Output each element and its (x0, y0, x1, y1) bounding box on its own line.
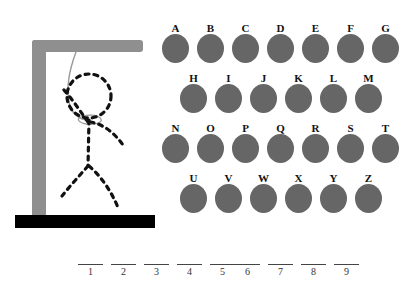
letter-disc[interactable] (197, 34, 224, 63)
letter-label: S (337, 122, 364, 134)
letter-disc[interactable] (250, 84, 277, 113)
letter-key-t[interactable]: T (372, 122, 407, 172)
gallows-area (0, 0, 165, 248)
letter-label: D (267, 22, 294, 34)
letter-label: T (372, 122, 399, 134)
letter-key-f[interactable]: F (337, 22, 372, 72)
letter-disc[interactable] (267, 134, 294, 163)
letter-label: I (215, 72, 242, 84)
letter-disc[interactable] (180, 184, 207, 213)
letter-disc[interactable] (302, 134, 329, 163)
letter-key-x[interactable]: X (285, 172, 320, 222)
letter-key-m[interactable]: M (355, 72, 390, 122)
letter-key-g[interactable]: G (372, 22, 407, 72)
letter-key-u[interactable]: U (180, 172, 215, 222)
letter-key-a[interactable]: A (162, 22, 197, 72)
letter-key-q[interactable]: Q (267, 122, 302, 172)
letter-disc[interactable] (250, 184, 277, 213)
figure-left-leg (62, 166, 88, 196)
letter-key-k[interactable]: K (285, 72, 320, 122)
answer-slot-number: 6 (232, 266, 263, 278)
answer-slot-number: 2 (108, 266, 139, 278)
answer-slot[interactable]: 8 (298, 258, 329, 278)
letter-label: K (285, 72, 312, 84)
letter-key-b[interactable]: B (197, 22, 232, 72)
answer-slot[interactable]: 4 (174, 258, 205, 278)
letter-key-y[interactable]: Y (320, 172, 355, 222)
figure-right-arm (90, 122, 125, 148)
letter-disc[interactable] (337, 134, 364, 163)
letter-label: L (320, 72, 347, 84)
letter-label: Z (355, 172, 382, 184)
letter-key-i[interactable]: I (215, 72, 250, 122)
letter-key-o[interactable]: O (197, 122, 232, 172)
letter-disc[interactable] (302, 34, 329, 63)
letter-key-l[interactable]: L (320, 72, 355, 122)
letter-disc[interactable] (197, 134, 224, 163)
letter-disc[interactable] (372, 134, 399, 163)
answer-slot[interactable]: 1 (75, 258, 106, 278)
letter-key-e[interactable]: E (302, 22, 337, 72)
letter-label: W (250, 172, 277, 184)
answer-blanks-area: 1 2 3 4 5 6 (0, 258, 412, 298)
answer-slot-number: 8 (298, 266, 329, 278)
letter-label: X (285, 172, 312, 184)
letter-key-w[interactable]: W (250, 172, 285, 222)
letter-disc[interactable] (232, 134, 259, 163)
letter-key-h[interactable]: H (180, 72, 215, 122)
figure-torso (88, 120, 89, 166)
letter-label: A (162, 22, 189, 34)
answer-slot[interactable]: 9 (331, 258, 362, 278)
letter-disc[interactable] (232, 34, 259, 63)
letter-key-z[interactable]: Z (355, 172, 390, 222)
figure-head (67, 74, 111, 118)
answer-blank-line (235, 264, 260, 265)
letter-disc[interactable] (320, 184, 347, 213)
letter-label: H (180, 72, 207, 84)
letter-disc[interactable] (162, 34, 189, 63)
letter-disc[interactable] (267, 34, 294, 63)
answer-slot[interactable]: 2 (108, 258, 139, 278)
letter-key-s[interactable]: S (337, 122, 372, 172)
letter-disc[interactable] (320, 84, 347, 113)
hangman-figure (0, 0, 165, 248)
answer-slot[interactable]: 7 (265, 258, 296, 278)
letter-label: E (302, 22, 329, 34)
answer-blank-line (111, 264, 136, 265)
answer-blank-line (78, 264, 103, 265)
letter-disc[interactable] (285, 184, 312, 213)
letter-label: C (232, 22, 259, 34)
letter-disc[interactable] (285, 84, 312, 113)
letter-disc[interactable] (162, 134, 189, 163)
letter-disc[interactable] (215, 84, 242, 113)
letter-disc[interactable] (372, 34, 399, 63)
letter-disc[interactable] (337, 34, 364, 63)
answer-slot-number: 4 (174, 266, 205, 278)
letter-label: Q (267, 122, 294, 134)
letter-disc[interactable] (355, 84, 382, 113)
letter-disc[interactable] (215, 184, 242, 213)
letter-key-v[interactable]: V (215, 172, 250, 222)
letter-key-c[interactable]: C (232, 22, 267, 72)
letter-key-r[interactable]: R (302, 122, 337, 172)
letter-row: N O P Q R S T (162, 122, 412, 172)
letter-disc[interactable] (180, 84, 207, 113)
answer-slot-number: 3 (141, 266, 172, 278)
answer-slot-number: 7 (265, 266, 296, 278)
letter-disc[interactable] (355, 184, 382, 213)
answer-word-1: 1 2 3 4 5 (75, 258, 240, 278)
answer-slot[interactable]: 6 (232, 258, 263, 278)
letter-label: G (372, 22, 399, 34)
letter-key-p[interactable]: P (232, 122, 267, 172)
letter-label: F (337, 22, 364, 34)
answer-blank-line (301, 264, 326, 265)
answer-slot[interactable]: 3 (141, 258, 172, 278)
answer-slot-number: 9 (331, 266, 362, 278)
answer-blank-line (334, 264, 359, 265)
letter-key-j[interactable]: J (250, 72, 285, 122)
figure-right-leg (89, 166, 119, 210)
answer-blank-line (144, 264, 169, 265)
letter-key-d[interactable]: D (267, 22, 302, 72)
letter-label: P (232, 122, 259, 134)
letter-key-n[interactable]: N (162, 122, 197, 172)
